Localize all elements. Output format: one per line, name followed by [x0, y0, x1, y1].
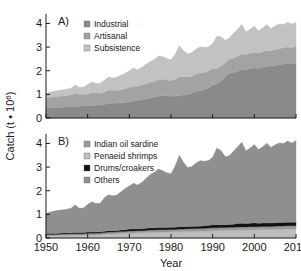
legend-label: Drums/croakers [94, 163, 154, 173]
legend-label: Penaeid shrimps [94, 151, 157, 161]
figure-container: 01234A)IndustrialArtisanalSubsistence 01… [0, 0, 301, 271]
y-tick-label: 4 [36, 17, 42, 29]
legend-swatch [84, 165, 90, 171]
y-tick-label: 2 [36, 185, 42, 197]
legend-swatch [84, 45, 90, 51]
y-tick-label: 0 [36, 112, 42, 124]
x-tick-label: 1950 [34, 241, 58, 253]
legend-label: Subsistence [94, 43, 141, 53]
y-tick-label: 3 [36, 161, 42, 173]
y-tick-label: 2 [36, 65, 42, 77]
legend-label: Artisanal [94, 31, 127, 41]
y-tick-label: 3 [36, 41, 42, 53]
y-tick-label: 4 [36, 137, 42, 149]
x-tick-label: 1980 [159, 241, 183, 253]
legend-label: Industrial [94, 19, 129, 29]
legend-item: Penaeid shrimps [84, 151, 157, 161]
panel-label: B) [58, 135, 69, 147]
panel-label: A) [58, 15, 69, 27]
x-tick-label: 2010 [284, 241, 301, 253]
x-tick-label: 1990 [200, 241, 224, 253]
stacked-area-figure: 01234A)IndustrialArtisanalSubsistence 01… [0, 0, 301, 271]
legend-label: Indian oil sardine [94, 139, 159, 149]
y-tick-label: 1 [36, 88, 42, 100]
x-tick-label: 2000 [242, 241, 266, 253]
x-tick-label: 1960 [75, 241, 99, 253]
x-axis-title: Year [160, 257, 183, 269]
legend-swatch [84, 33, 90, 39]
legend-item: Indian oil sardine [84, 139, 159, 149]
legend-swatch [84, 153, 90, 159]
legend-swatch [84, 141, 90, 147]
legend-swatch [84, 177, 90, 183]
legend-item: Drums/croakers [84, 163, 154, 173]
x-tick-label: 1970 [117, 241, 141, 253]
y-tick-label: 1 [36, 208, 42, 220]
legend-label: Others [94, 175, 120, 185]
legend-swatch [84, 21, 90, 27]
y-axis-title: Catch (t • 106) [4, 92, 17, 161]
